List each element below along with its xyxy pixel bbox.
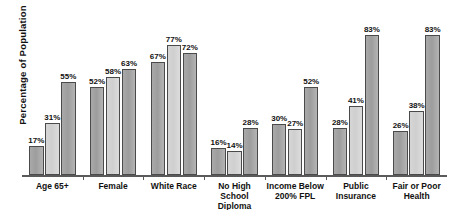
x-axis-tick bbox=[143, 175, 144, 180]
bar bbox=[393, 131, 408, 175]
x-axis-tick bbox=[204, 175, 205, 180]
bar-group: 16%14%28% bbox=[211, 6, 258, 175]
category-label-line: Age 65+ bbox=[22, 181, 83, 191]
bar-value-label: 72% bbox=[180, 43, 201, 52]
x-axis-tick bbox=[265, 175, 266, 180]
bar-value-label: 58% bbox=[103, 67, 124, 76]
bar-value-label: 17% bbox=[26, 136, 47, 145]
bar-value-label: 31% bbox=[42, 113, 63, 122]
bar-value-label: 27% bbox=[285, 119, 306, 128]
bar bbox=[409, 111, 424, 175]
bar bbox=[272, 124, 287, 175]
bar bbox=[29, 146, 44, 175]
bar-value-label: 28% bbox=[330, 118, 351, 127]
category-label-line: Diploma bbox=[204, 201, 265, 210]
bar bbox=[333, 128, 348, 175]
bar-value-label: 26% bbox=[390, 121, 411, 130]
bar bbox=[122, 69, 137, 175]
bar-value-label: 67% bbox=[148, 52, 169, 61]
bar bbox=[61, 82, 76, 175]
bar bbox=[167, 45, 182, 175]
bar-value-label: 28% bbox=[240, 118, 261, 127]
category-label-line: No High School bbox=[204, 181, 265, 201]
bar bbox=[45, 123, 60, 175]
bar-group: 28%41%83% bbox=[333, 6, 380, 175]
category-label-line: Public bbox=[326, 181, 387, 191]
bar-group: 52%58%63% bbox=[90, 6, 137, 175]
bar bbox=[183, 53, 198, 175]
bar-value-label: 55% bbox=[58, 72, 79, 81]
bar bbox=[90, 87, 105, 175]
bar-group: 26%38%83% bbox=[393, 6, 440, 175]
bar-value-label: 52% bbox=[87, 77, 108, 86]
bar-group: 30%27%52% bbox=[272, 6, 319, 175]
category-label: Female bbox=[83, 181, 144, 191]
bar bbox=[227, 151, 242, 175]
plot-area: 17%31%55%52%58%63%67%77%72%16%14%28%30%2… bbox=[22, 6, 447, 175]
category-label: No High SchoolDiploma bbox=[204, 181, 265, 210]
bar-value-label: 83% bbox=[422, 25, 443, 34]
x-axis-line bbox=[22, 175, 447, 177]
bar-value-label: 41% bbox=[346, 96, 367, 105]
category-label-line: Health bbox=[386, 191, 447, 201]
category-label-line: Income Below bbox=[265, 181, 326, 191]
bar-value-label: 83% bbox=[362, 25, 383, 34]
category-label-line: Fair or Poor bbox=[386, 181, 447, 191]
bar bbox=[106, 77, 121, 175]
bar bbox=[211, 148, 226, 175]
bar-group: 17%31%55% bbox=[29, 6, 76, 175]
bar bbox=[243, 128, 258, 175]
x-axis-tick bbox=[386, 175, 387, 180]
x-axis-tick bbox=[326, 175, 327, 180]
category-label: Fair or PoorHealth bbox=[386, 181, 447, 201]
category-label: White Race bbox=[143, 181, 204, 191]
bar bbox=[349, 106, 364, 175]
bar-value-label: 52% bbox=[301, 77, 322, 86]
category-label-line: Insurance bbox=[326, 191, 387, 201]
bar bbox=[425, 35, 440, 175]
bar bbox=[151, 62, 166, 175]
bar-chart: Percentage of Population 17%31%55%52%58%… bbox=[0, 0, 454, 210]
category-label-line: White Race bbox=[143, 181, 204, 191]
bar bbox=[288, 129, 303, 175]
category-label-line: 200% FPL bbox=[265, 191, 326, 201]
bar-group: 67%77%72% bbox=[151, 6, 198, 175]
bar-value-label: 14% bbox=[224, 141, 245, 150]
bar-value-label: 63% bbox=[119, 59, 140, 68]
category-label: Income Below200% FPL bbox=[265, 181, 326, 201]
bar bbox=[304, 87, 319, 175]
bar bbox=[365, 35, 380, 175]
category-label: Age 65+ bbox=[22, 181, 83, 191]
category-label: PublicInsurance bbox=[326, 181, 387, 201]
bar-value-label: 38% bbox=[406, 101, 427, 110]
category-label-line: Female bbox=[83, 181, 144, 191]
x-axis-tick bbox=[83, 175, 84, 180]
